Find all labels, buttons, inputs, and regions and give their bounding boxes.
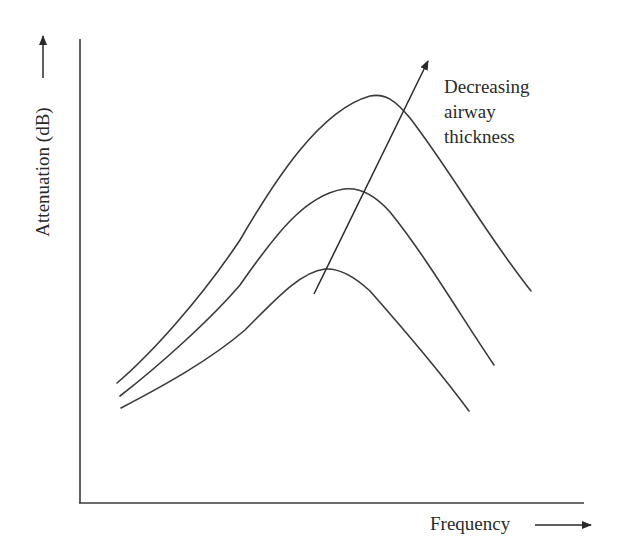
curve-medium-airway <box>120 189 494 396</box>
x-axis-label: Frequency <box>430 513 511 534</box>
annotation-line-3: thickness <box>444 126 515 147</box>
curve-thick-airway <box>121 269 469 411</box>
axes <box>79 39 584 503</box>
annotation-text: Decreasing airway thickness <box>444 76 530 147</box>
x-axis-label-group: Frequency <box>430 513 591 534</box>
y-axis-label-group: Attenuation (dB) <box>32 36 54 237</box>
annotation-line-2: airway <box>444 101 496 122</box>
y-axis-label: Attenuation (dB) <box>32 107 54 236</box>
attenuation-frequency-diagram: Attenuation (dB) Frequency Decreasing ai… <box>0 0 618 556</box>
annotation-line-1: Decreasing <box>444 76 530 97</box>
